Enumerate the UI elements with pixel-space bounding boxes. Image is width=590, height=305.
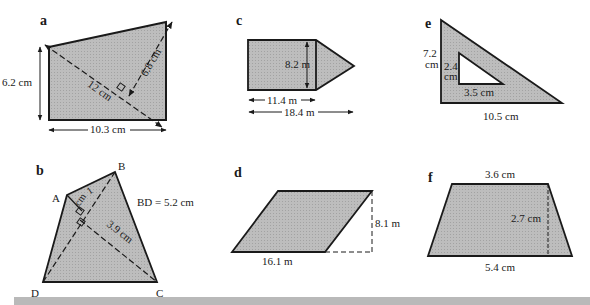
figure-e-inner-base: 3.5 cm	[464, 86, 494, 98]
figure-b-bd-note: BD = 5.2 cm	[137, 196, 194, 208]
figure-b-vertex-b: B	[118, 160, 125, 172]
figure-f-height: 2.7 cm	[511, 212, 541, 224]
figure-a-left-height: 6.2 cm	[2, 76, 32, 88]
figure-b-vertex-a: A	[52, 192, 60, 204]
figure-a-label: a	[40, 13, 47, 28]
figure-d-shape	[232, 191, 372, 252]
figure-e-label: e	[425, 16, 431, 31]
figure-d-base: 16.1 m	[262, 255, 293, 267]
figure-c-height: 8.2 m	[285, 58, 311, 70]
figure-c-total-width: 18.4 m	[284, 106, 315, 118]
figure-e-inner-height-unit: cm	[444, 70, 458, 82]
figure-f-top: 3.6 cm	[485, 168, 515, 180]
figure-b: b A B C D 1 cm 3.9 cm BD = 5.2 cm	[31, 160, 194, 299]
figure-f: f 3.6 cm 2.7 cm 5.4 cm	[428, 168, 572, 273]
figure-b-label: b	[36, 163, 44, 178]
footer-band	[14, 297, 590, 305]
figure-b-shape	[43, 172, 157, 282]
figure-c-label: c	[236, 13, 242, 28]
figure-e-outer-height-unit: cm	[425, 58, 439, 70]
figure-d-height: 8.1 m	[375, 217, 401, 229]
figure-e-outer-base: 10.5 cm	[483, 110, 519, 122]
figure-c: c 8.2 m 11.4 m 18.4 m	[236, 13, 354, 118]
figure-d-label: d	[234, 165, 242, 180]
figure-a: a 6.2 cm 12 cm 6.8 cm 10.3 cm	[2, 13, 172, 135]
figure-a-base: 10.3 cm	[90, 123, 126, 135]
figure-c-rect-width: 11.4 m	[267, 94, 298, 106]
figure-d: d 8.1 m 16.1 m	[232, 165, 401, 267]
figure-f-label: f	[428, 170, 433, 185]
figure-e: e 7.2 cm 2.4 cm 3.5 cm 10.5 cm	[423, 16, 562, 122]
figures-canvas: a 6.2 cm 12 cm 6.8 cm 10.3 cm c 8.2 m 11…	[0, 0, 590, 305]
figure-f-bottom: 5.4 cm	[485, 261, 515, 273]
figure-f-shape	[428, 184, 572, 256]
